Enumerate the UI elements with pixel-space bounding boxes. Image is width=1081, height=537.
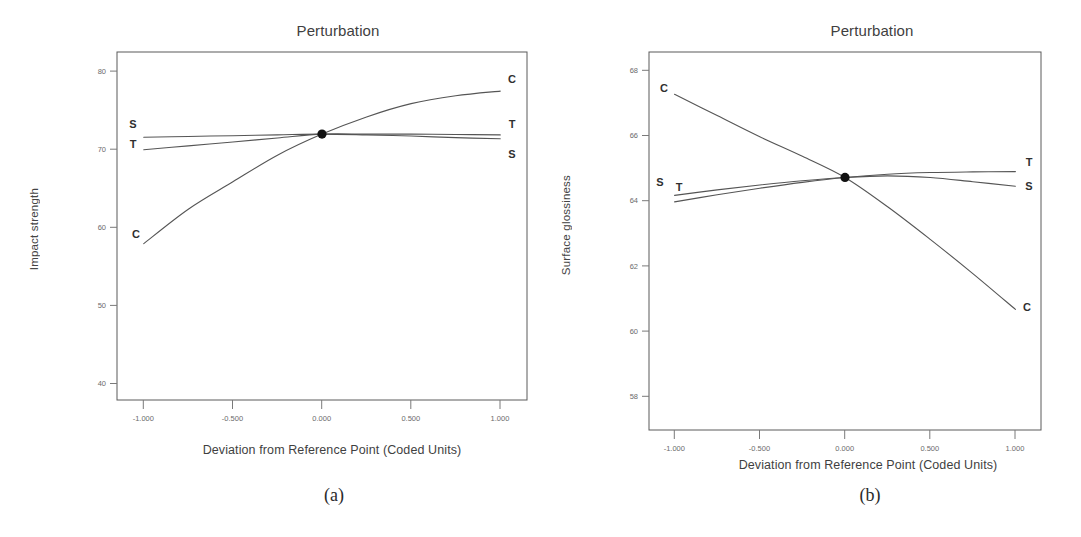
panel-caption-a: (a) [0, 485, 604, 506]
panel-a: Perturbation Impact strength 80 70 60 50… [0, 0, 540, 537]
curve-label-right-t-a: T [509, 118, 516, 130]
y-tick-label: 70 [98, 145, 106, 154]
curve-label-left-c-b: C [660, 82, 668, 94]
y-axis-ticks-b: 68 66 64 62 60 58 [630, 66, 649, 401]
curve-label-left-s-a: S [129, 118, 136, 130]
plot-frame-b [649, 52, 1041, 430]
x-axis-title-b: Deviation from Reference Point (Coded Un… [540, 458, 1081, 472]
curve-label-right-s-a: S [508, 148, 515, 160]
x-tick-label: 0.500 [401, 414, 420, 423]
x-tick-label: 0.000 [835, 444, 854, 453]
curves-b [675, 94, 1016, 309]
y-tick-label: 40 [98, 379, 106, 388]
x-tick-label: 1.000 [1006, 444, 1025, 453]
y-tick-label: 68 [630, 66, 638, 75]
panel-caption-b: (b) [540, 485, 1081, 506]
curve-label-right-t-b: T [1026, 156, 1033, 168]
y-tick-label: 50 [98, 301, 106, 310]
curves-a [144, 91, 501, 244]
curve-label-right-c-a: C [508, 73, 516, 85]
curve-label-right-s-b: S [1025, 180, 1032, 192]
x-tick-label: 0.000 [312, 414, 331, 423]
curve-label-left-t-b: T [676, 181, 683, 193]
y-tick-label: 60 [630, 327, 638, 336]
y-tick-label: 64 [630, 196, 638, 205]
y-tick-label: 66 [630, 131, 638, 140]
plot-frame-a [117, 52, 527, 400]
x-tick-label: -1.000 [133, 414, 154, 423]
curve-label-left-s-b: S [656, 176, 663, 188]
x-tick-label: 1.000 [491, 414, 510, 423]
curve-c [144, 91, 501, 244]
x-tick-label: 0.500 [920, 444, 939, 453]
reference-point-marker-a [317, 130, 326, 139]
y-axis-ticks-a: 80 70 60 50 40 [98, 67, 117, 388]
curve-c [675, 94, 1016, 309]
x-axis-ticks-b: -1.000 -0.500 0.000 0.500 1.000 [664, 430, 1025, 453]
curve-label-right-c-b: C [1023, 301, 1031, 313]
x-axis-title-a: Deviation from Reference Point (Coded Un… [0, 443, 602, 457]
y-tick-label: 60 [98, 223, 106, 232]
x-tick-label: -0.500 [749, 444, 770, 453]
perturbation-figure-pair: Perturbation Impact strength 80 70 60 50… [0, 0, 1081, 537]
curve-label-left-c-a: C [132, 228, 140, 240]
y-tick-label: 62 [630, 262, 638, 271]
y-tick-label: 58 [630, 392, 638, 401]
reference-point-marker-b [840, 173, 849, 182]
x-axis-ticks-a: -1.000 -0.500 0.000 0.500 1.000 [133, 400, 510, 423]
x-tick-label: -1.000 [664, 444, 685, 453]
x-tick-label: -0.500 [222, 414, 243, 423]
plot-area-b: 68 66 64 62 60 58 -1.000 -0.500 0.000 0.… [540, 0, 1080, 537]
panel-b: Perturbation Surface glossiness 68 66 64… [540, 0, 1080, 537]
curve-label-left-t-a: T [130, 138, 137, 150]
y-tick-label: 80 [98, 67, 106, 76]
